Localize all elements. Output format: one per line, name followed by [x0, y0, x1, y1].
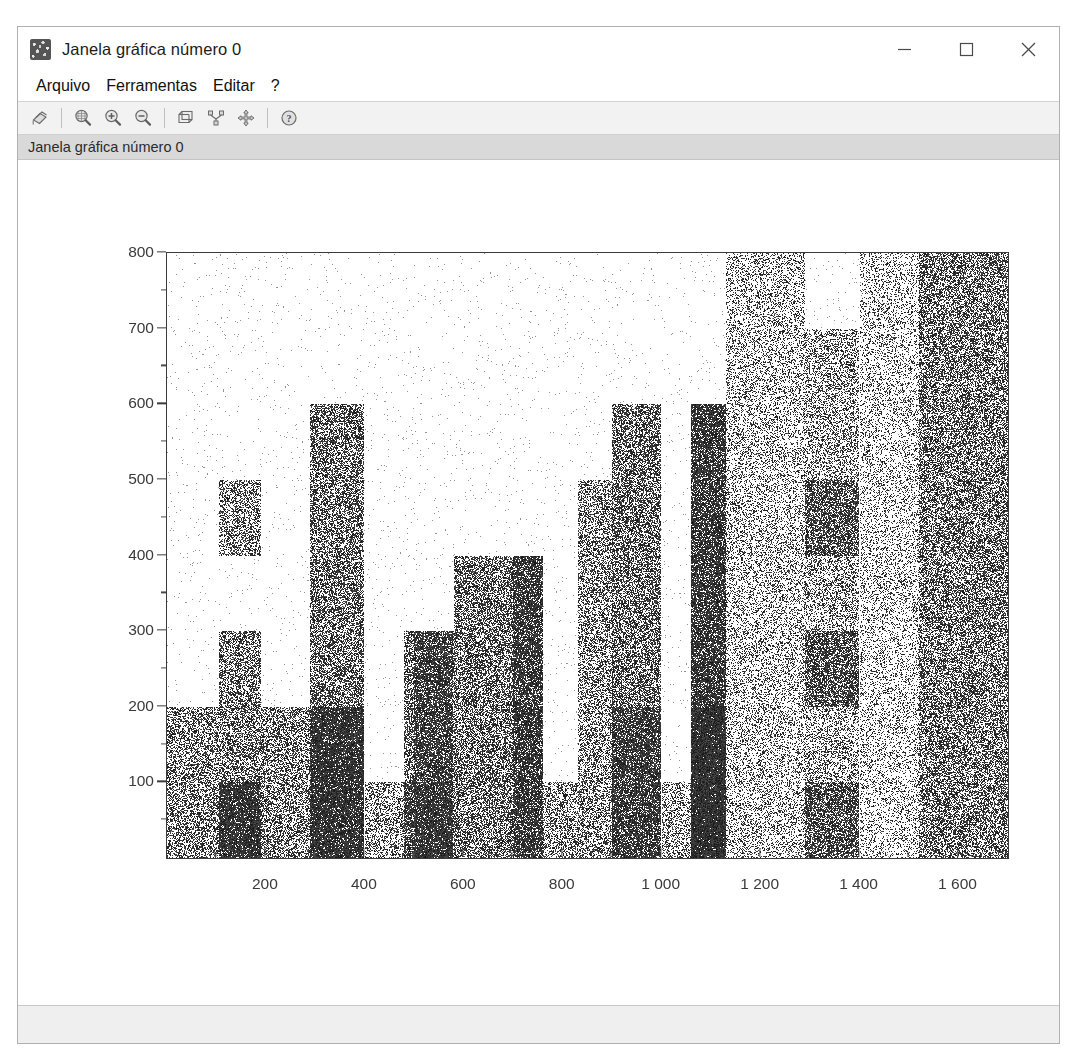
menu-arquivo[interactable]: Arquivo [28, 77, 98, 95]
rotate-3d-icon [176, 108, 196, 128]
y-tick-label: 100 [128, 772, 154, 790]
x-tick-label: 800 [549, 875, 575, 893]
toolbar-separator-1 [61, 108, 62, 128]
export-icon [30, 108, 50, 128]
close-button[interactable] [997, 27, 1059, 71]
y-tick-minor [161, 743, 166, 744]
x-tick-major [462, 848, 463, 857]
plot-container: 2004006008001 0001 2001 4001 600 1002003… [149, 252, 1009, 932]
y-tick-major [157, 403, 166, 404]
x-tick-minor [512, 852, 513, 857]
menu-editar[interactable]: Editar [205, 77, 263, 95]
status-bar [18, 1005, 1059, 1043]
y-tick-label: 700 [128, 319, 154, 337]
zoom-box-button[interactable] [69, 105, 97, 131]
y-tick-label: 400 [128, 546, 154, 564]
x-tick-minor [413, 852, 414, 857]
title-bar: Janela gráfica número 0 [18, 27, 1059, 71]
toolbar-separator-2 [164, 108, 165, 128]
plot-frame [166, 252, 1009, 859]
x-tick-major [363, 848, 364, 857]
minimize-icon [896, 41, 913, 58]
x-tick-major [660, 848, 661, 857]
y-tick-major [157, 554, 166, 555]
scilab-graphic-window-icon [30, 39, 51, 60]
y-tick-major [157, 251, 166, 252]
x-tick-major [957, 848, 958, 857]
x-axis: 2004006008001 0001 2001 4001 600 [166, 857, 1007, 917]
x-tick-label: 200 [252, 875, 278, 893]
menu-bar: Arquivo Ferramentas Editar ? [18, 71, 1059, 102]
zoom-out-icon [133, 108, 153, 128]
y-tick-major [157, 629, 166, 630]
x-tick-major [858, 848, 859, 857]
zoom-in-button[interactable] [99, 105, 127, 131]
toolbar: ? [18, 102, 1059, 135]
help-button[interactable]: ? [275, 105, 303, 131]
x-tick-minor [710, 852, 711, 857]
export-button[interactable] [26, 105, 54, 131]
minimize-button[interactable] [873, 27, 935, 71]
pan-move-icon [236, 108, 256, 128]
plot-print-noise [167, 253, 1008, 858]
y-tick-minor [161, 516, 166, 517]
y-tick-major [157, 478, 166, 479]
x-tick-label: 1 600 [938, 875, 977, 893]
x-tick-minor [809, 852, 810, 857]
help-icon: ? [279, 108, 299, 128]
y-tick-label: 600 [128, 394, 154, 412]
pan-move-button[interactable] [232, 105, 260, 131]
svg-text:?: ? [287, 113, 292, 124]
maximize-button[interactable] [935, 27, 997, 71]
x-tick-major [264, 848, 265, 857]
x-tick-minor [611, 852, 612, 857]
menu-ferramentas[interactable]: Ferramentas [98, 77, 205, 95]
x-tick-label: 1 200 [740, 875, 779, 893]
y-tick-minor [161, 592, 166, 593]
datatip-icon [206, 108, 226, 128]
x-tick-major [759, 848, 760, 857]
y-tick-label: 200 [128, 697, 154, 715]
x-tick-label: 600 [450, 875, 476, 893]
zoom-in-icon [103, 108, 123, 128]
x-tick-label: 1 000 [641, 875, 680, 893]
x-tick-minor [907, 852, 908, 857]
y-tick-major [157, 781, 166, 782]
y-tick-minor [161, 440, 166, 441]
graphic-window-infobar: Janela gráfica número 0 [18, 135, 1059, 160]
maximize-icon [958, 41, 975, 58]
window-title: Janela gráfica número 0 [62, 40, 241, 59]
menu-help[interactable]: ? [263, 77, 288, 95]
y-tick-major [157, 705, 166, 706]
y-tick-major [157, 327, 166, 328]
y-tick-label: 800 [128, 243, 154, 261]
y-tick-label: 500 [128, 470, 154, 488]
y-tick-minor [161, 667, 166, 668]
y-tick-minor [161, 289, 166, 290]
rotate-3d-button[interactable] [172, 105, 200, 131]
close-icon [1019, 40, 1038, 59]
application-window: Janela gráfica número 0 [17, 26, 1060, 1044]
y-tick-minor [161, 365, 166, 366]
zoom-box-icon [73, 108, 93, 128]
x-tick-label: 1 400 [839, 875, 878, 893]
toolbar-separator-3 [267, 108, 268, 128]
screenshot-root: Janela gráfica número 0 [0, 0, 1077, 1054]
window-controls [873, 27, 1059, 71]
infobar-label: Janela gráfica número 0 [28, 139, 184, 155]
x-tick-major [561, 848, 562, 857]
zoom-out-button[interactable] [129, 105, 157, 131]
x-tick-minor [215, 852, 216, 857]
y-tick-minor [161, 819, 166, 820]
x-tick-label: 400 [351, 875, 377, 893]
datatip-button[interactable] [202, 105, 230, 131]
graphics-canvas[interactable]: 2004006008001 0001 2001 4001 600 1002003… [18, 160, 1059, 1005]
y-tick-label: 300 [128, 621, 154, 639]
x-tick-minor [314, 852, 315, 857]
